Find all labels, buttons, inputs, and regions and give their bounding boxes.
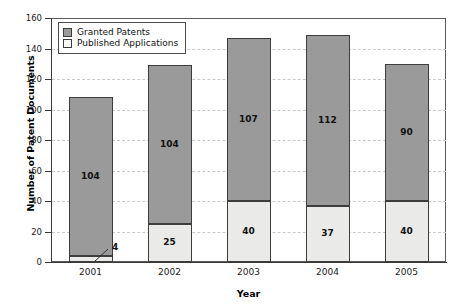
y-tick-label: 60: [0, 167, 42, 176]
y-tick-label: 0: [0, 258, 42, 267]
x-tick-label-2005: 2005: [377, 268, 437, 277]
x-tick-label-2003: 2003: [219, 268, 279, 277]
bar-segment-granted-2004[interactable]: 112: [306, 35, 350, 206]
x-tick-label-2002: 2002: [140, 268, 200, 277]
patent-documents-stacked-bar-chart: Number of Patent Documents 1601401201008…: [0, 0, 456, 306]
y-tick-mark: [45, 262, 51, 263]
x-tick-label-2004: 2004: [298, 268, 358, 277]
y-axis-title: Number of Patent Documents: [25, 29, 36, 239]
bar-value-granted-2004: 112: [318, 116, 337, 125]
bar-segment-published-2005[interactable]: 40: [385, 201, 429, 262]
bars-layer: 41042510440107371124090: [51, 18, 446, 262]
legend-item-granted-patents: Granted Patents: [63, 27, 178, 38]
bar-value-granted-2002: 104: [160, 140, 179, 149]
x-axis-line: [51, 262, 447, 263]
bar-value-published-2004: 37: [321, 229, 334, 238]
legend-swatch-published-applications: [63, 39, 72, 48]
y-tick-label: 80: [0, 136, 42, 145]
bar-value-granted-2005: 90: [400, 128, 413, 137]
callout-value-2001-published: 4: [112, 243, 118, 252]
bar-segment-granted-2002[interactable]: 104: [148, 65, 192, 224]
bar-group-2002[interactable]: 25104: [148, 65, 192, 262]
y-tick-label: 120: [0, 75, 42, 84]
bar-segment-published-2001[interactable]: 4: [69, 256, 113, 262]
bar-group-2005[interactable]: 4090: [385, 64, 429, 262]
y-tick-label: 100: [0, 106, 42, 115]
chart-legend: Granted Patents Published Applications: [58, 22, 186, 54]
x-axis-title: Year: [51, 288, 446, 299]
legend-item-published-applications: Published Applications: [63, 38, 178, 49]
bar-segment-published-2004[interactable]: 37: [306, 206, 350, 262]
bar-value-published-2003: 40: [242, 227, 255, 236]
legend-swatch-granted-patents: [63, 28, 72, 37]
bar-group-2003[interactable]: 40107: [227, 38, 271, 262]
y-tick-label: 160: [0, 14, 42, 23]
y-tick-label: 140: [0, 45, 42, 54]
bar-segment-granted-2003[interactable]: 107: [227, 38, 271, 201]
bar-value-published-2002: 25: [163, 238, 176, 247]
bar-segment-published-2003[interactable]: 40: [227, 201, 271, 262]
bar-segment-granted-2001[interactable]: 104: [69, 97, 113, 256]
bar-group-2001[interactable]: 4104: [69, 97, 113, 262]
bar-group-2004[interactable]: 37112: [306, 35, 350, 262]
y-tick-label: 20: [0, 228, 42, 237]
legend-label-granted-patents: Granted Patents: [77, 28, 150, 37]
bar-value-granted-2003: 107: [239, 115, 258, 124]
bar-segment-published-2002[interactable]: 25: [148, 224, 192, 262]
bar-value-granted-2001: 104: [81, 172, 100, 181]
bar-value-published-2005: 40: [400, 227, 413, 236]
legend-label-published-applications: Published Applications: [77, 39, 178, 48]
x-tick-label-2001: 2001: [61, 268, 121, 277]
y-tick-label: 40: [0, 197, 42, 206]
bar-segment-granted-2005[interactable]: 90: [385, 64, 429, 201]
